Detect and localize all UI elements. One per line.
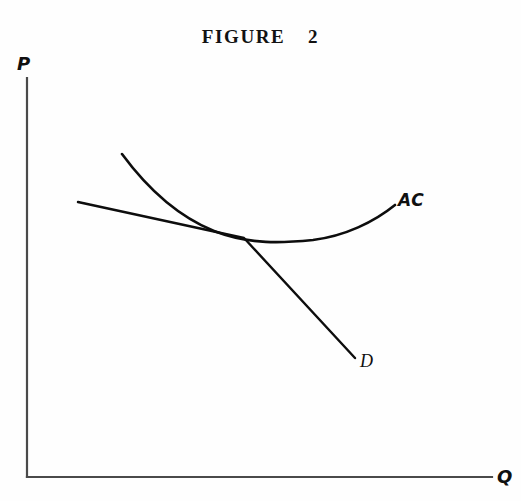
y-axis-label: P [17, 53, 30, 74]
average-cost-curve [122, 154, 395, 242]
x-axis-label: Q [497, 466, 512, 487]
figure-page: FIGURE 2 P Q AC D [0, 0, 521, 501]
demand-curve [78, 202, 355, 358]
demand-curve-label: D [360, 351, 373, 372]
average-cost-curve-label: AC [398, 190, 424, 210]
plot-area [0, 0, 521, 501]
